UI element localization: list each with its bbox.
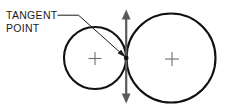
diagram-canvas: TANGENT POINT <box>0 0 231 110</box>
tangent-label-line-2: POINT <box>6 22 40 34</box>
tangent-label-line-1: TANGENT <box>6 9 58 21</box>
tangent-point-diagram: TANGENT POINT <box>0 0 231 110</box>
